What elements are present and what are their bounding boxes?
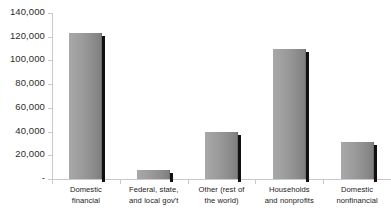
- category-label-line: Domestic: [52, 184, 120, 195]
- bar-shadow: [102, 36, 105, 182]
- bar-edge: [101, 33, 102, 179]
- category-label-line: the world): [188, 195, 256, 206]
- y-axis-tick-label: 40,000: [15, 126, 45, 136]
- y-axis-tick-label: -: [42, 173, 45, 183]
- bar[interactable]: [69, 33, 102, 179]
- category-label-line: financial: [52, 195, 120, 206]
- y-axis-tick: [48, 84, 52, 85]
- bar-chart: -20,00040,00060,00080,000100,000120,0001…: [0, 0, 391, 218]
- y-axis-tick-label: 80,000: [15, 78, 45, 88]
- category-label-line: Other (rest of: [188, 184, 256, 195]
- y-axis-tick: [48, 37, 52, 38]
- category-label-line: Domestic: [323, 184, 391, 195]
- category-label-line: nonfinancial: [323, 195, 391, 206]
- y-axis-tick-label: 140,000: [10, 7, 45, 17]
- y-axis-line: [52, 13, 53, 180]
- bar-shadow: [374, 145, 377, 182]
- bar-edge: [305, 49, 306, 179]
- bar-edge: [373, 142, 374, 179]
- category-label-line: and local gov't: [120, 195, 188, 206]
- y-axis-tick: [48, 132, 52, 133]
- y-axis-tick: [48, 60, 52, 61]
- bar[interactable]: [273, 49, 306, 179]
- category-label-line: Federal, state,: [120, 184, 188, 195]
- plot-area: -20,00040,00060,00080,000100,000120,0001…: [0, 0, 391, 218]
- y-axis-tick: [48, 108, 52, 109]
- y-axis-tick: [48, 155, 52, 156]
- bar-shadow: [238, 135, 241, 182]
- bar-shadow: [306, 52, 309, 182]
- category-label-line: Households: [255, 184, 323, 195]
- x-axis-category-label: Householdsand nonprofits: [255, 184, 323, 206]
- y-axis-tick-label: 20,000: [15, 149, 45, 159]
- bar[interactable]: [205, 132, 238, 179]
- y-axis-tick-label: 100,000: [10, 54, 45, 64]
- bar-edge: [237, 132, 238, 179]
- y-axis-tick: [48, 13, 52, 14]
- x-axis-category-label: Domesticfinancial: [52, 184, 120, 206]
- bar-edge: [169, 170, 170, 179]
- y-axis-tick-label: 60,000: [15, 102, 45, 112]
- bar[interactable]: [137, 170, 170, 179]
- bar-shadow: [170, 173, 173, 182]
- category-label-line: and nonprofits: [255, 195, 323, 206]
- x-axis-category-label: Federal, state,and local gov't: [120, 184, 188, 206]
- x-axis-category-label: Domesticnonfinancial: [323, 184, 391, 206]
- bar[interactable]: [341, 142, 374, 179]
- y-axis-tick-label: 120,000: [10, 31, 45, 41]
- x-axis-category-label: Other (rest ofthe world): [188, 184, 256, 206]
